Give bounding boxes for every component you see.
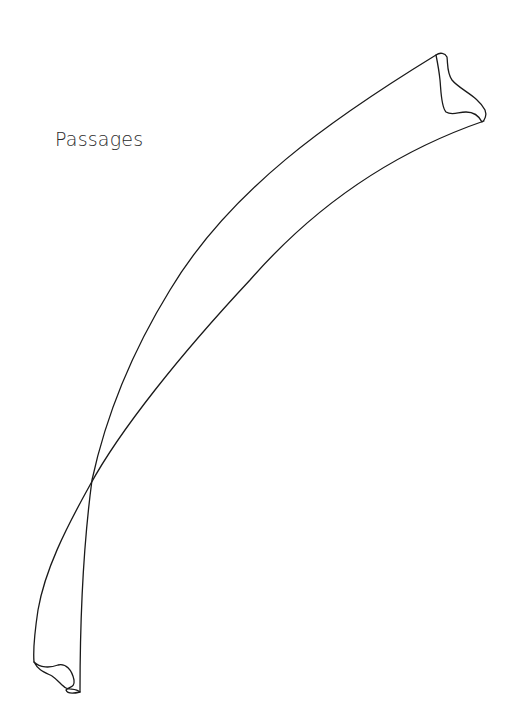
ribbon-drawing bbox=[0, 0, 519, 717]
ribbon-fold-bottom bbox=[34, 662, 80, 693]
ribbon-edge-upper bbox=[80, 55, 436, 692]
ribbon-edge-lower bbox=[34, 121, 484, 662]
ribbon-fold-top bbox=[436, 53, 486, 122]
